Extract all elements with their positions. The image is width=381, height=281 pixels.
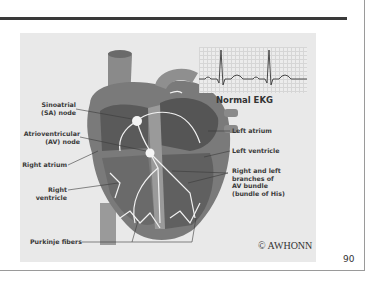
ekg-trace — [199, 47, 307, 93]
label-purkinje-fibers: Purkinje fibers — [30, 238, 82, 246]
label-line: (bundle of His) — [232, 190, 285, 198]
label-line: Right and left — [232, 167, 285, 175]
label-line: (SA) node — [22, 109, 76, 117]
label-line: AV bundle — [232, 182, 285, 190]
label-line: Atrioventricular — [20, 130, 80, 138]
label-sa-node: Sinoatrial (SA) node — [22, 101, 76, 116]
label-av-node: Atrioventricular (AV) node — [20, 130, 80, 145]
slide-border-right — [364, 0, 365, 271]
heart-conduction-figure: Normal EKG Sinoatrial (SA) node Atrioven… — [20, 33, 316, 262]
label-right-atrium: Right atrium — [20, 161, 67, 169]
title-rule — [0, 17, 347, 20]
label-line: Sinoatrial — [22, 101, 76, 109]
label-av-bundle: Right and left branches of AV bundle (bu… — [232, 167, 285, 197]
page-number: 90 — [343, 254, 354, 264]
copyright-notice: © AWHONN — [258, 240, 312, 251]
label-left-ventricle: Left ventricle — [232, 147, 280, 155]
label-line: (AV) node — [20, 138, 80, 146]
slide-border-bottom — [0, 270, 365, 271]
ekg-label: Normal EKG — [216, 95, 273, 105]
label-left-atrium: Left atrium — [232, 127, 272, 135]
label-line: branches of — [232, 175, 285, 183]
label-right-ventricle: Right ventricle — [20, 186, 67, 201]
ekg-grid — [199, 47, 307, 93]
